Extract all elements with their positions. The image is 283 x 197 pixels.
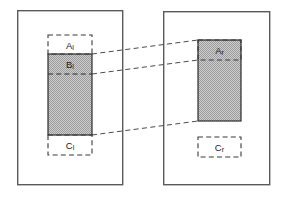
connector-top [92,40,198,54]
diagram-canvas: Al Bl Cl Ar Cr [0,0,283,197]
connector-bottom [92,121,198,135]
diagram-figure: Al Bl Cl Ar Cr [0,0,283,197]
label-cr: Cr [215,141,225,153]
label-al: Al [66,39,74,51]
connector-middle [92,60,198,74]
label-cl: Cl [66,139,75,151]
